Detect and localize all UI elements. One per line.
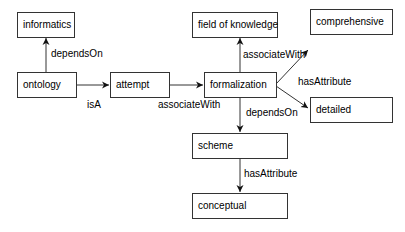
svg-text:informatics: informatics xyxy=(23,19,71,30)
svg-text:conceptual: conceptual xyxy=(198,200,246,211)
svg-text:detailed: detailed xyxy=(316,104,351,115)
node-ontology[interactable]: ontology xyxy=(18,73,77,98)
ontology-diagram: dependsOn isA associateWith associateWit… xyxy=(0,0,405,232)
svg-text:ontology: ontology xyxy=(23,79,61,90)
edge-label-isa: isA xyxy=(87,99,101,110)
node-conceptual[interactable]: conceptual xyxy=(193,194,288,219)
edge-label-associatewith: associateWith xyxy=(158,99,220,110)
node-formalization[interactable]: formalization xyxy=(205,73,277,98)
edge-label-hasattribute: hasAttribute xyxy=(298,76,352,87)
edge-label-hasattribute: hasAttribute xyxy=(244,168,298,179)
node-detailed[interactable]: detailed xyxy=(311,98,393,123)
node-scheme[interactable]: scheme xyxy=(193,134,288,159)
edge-label-dependson: dependsOn xyxy=(51,48,103,59)
svg-text:attempt: attempt xyxy=(116,79,150,90)
svg-text:scheme: scheme xyxy=(198,140,233,151)
svg-text:comprehensive: comprehensive xyxy=(316,16,384,27)
svg-text:formalization: formalization xyxy=(210,79,267,90)
svg-text:field of knowledge: field of knowledge xyxy=(198,19,278,30)
node-comprehensive[interactable]: comprehensive xyxy=(311,10,393,35)
edge-label-associatewith: associateWith xyxy=(243,49,305,60)
edge-formalization-detailed xyxy=(276,86,308,108)
node-field-of-knowledge[interactable]: field of knowledge xyxy=(193,13,279,38)
node-informatics[interactable]: informatics xyxy=(18,13,75,38)
edge-label-dependson: dependsOn xyxy=(246,107,298,118)
node-attempt[interactable]: attempt xyxy=(111,73,170,98)
